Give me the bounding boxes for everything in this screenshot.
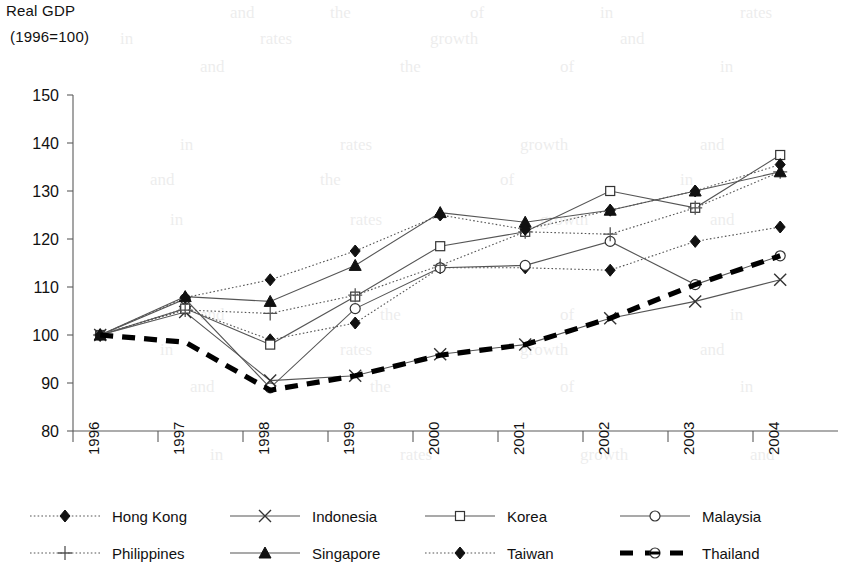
y-axis-tick-label: 80 (41, 423, 59, 440)
svg-text:in: in (170, 210, 184, 229)
legend-item[interactable]: Thailand (620, 545, 760, 562)
legend-label: Hong Kong (112, 508, 187, 525)
svg-text:the: the (330, 3, 351, 22)
svg-text:and: and (700, 340, 725, 359)
legend-item[interactable]: Malaysia (620, 508, 762, 525)
svg-text:of: of (560, 57, 575, 76)
legend-label: Taiwan (507, 545, 554, 562)
svg-text:and: and (620, 29, 645, 48)
data-point-marker (774, 274, 786, 286)
svg-text:and: and (710, 210, 735, 229)
data-point-marker (266, 340, 275, 349)
legend-item[interactable]: Singapore (230, 545, 380, 562)
legend-item[interactable]: Taiwan (425, 545, 554, 562)
x-axis-tick-label: 2004 (765, 422, 782, 455)
svg-text:rates: rates (260, 29, 292, 48)
svg-text:of: of (500, 170, 515, 189)
x-axis-tick-label: 2001 (510, 422, 527, 455)
svg-text:rates: rates (340, 135, 372, 154)
legend-label: Malaysia (702, 508, 762, 525)
svg-text:in: in (600, 3, 614, 22)
data-point-marker (349, 259, 361, 270)
real-gdp-chart: Real GDP (1996=100) andtheofinratesinrat… (0, 0, 854, 577)
x-axis-tick-label: 2002 (595, 422, 612, 455)
legend-item[interactable]: Hong Kong (30, 508, 187, 525)
legend-label: Philippines (112, 545, 185, 562)
svg-text:growth: growth (520, 135, 569, 154)
x-axis-tick-label: 2000 (425, 422, 442, 455)
open-square-solid-line-icon (425, 512, 495, 521)
svg-text:rates: rates (740, 3, 772, 22)
plus-cross-dotted-line-icon (30, 546, 100, 560)
data-point-marker (435, 209, 445, 221)
data-point-marker (775, 221, 785, 233)
x-axis-tick-label: 1998 (255, 422, 272, 455)
legend-item[interactable]: Indonesia (230, 508, 378, 525)
x-axis-tick-label: 1997 (170, 422, 187, 455)
data-series (95, 221, 785, 346)
svg-text:in: in (740, 377, 754, 396)
legend-label: Thailand (702, 545, 760, 562)
y-axis-tick-label: 90 (41, 375, 59, 392)
svg-text:the: the (380, 305, 401, 324)
svg-text:and: and (200, 305, 225, 324)
svg-text:in: in (720, 57, 734, 76)
svg-text:the: the (320, 170, 341, 189)
svg-text:and: and (150, 170, 175, 189)
data-point-marker (436, 242, 445, 251)
y-axis-tick-label: 130 (32, 183, 59, 200)
svg-text:of: of (470, 3, 485, 22)
y-axis-tick-label: 110 (33, 279, 59, 296)
legend-item[interactable]: Philippines (30, 545, 185, 562)
page-bleed-artifact: andtheofinratesinratesgrowthandandtheofi… (120, 3, 775, 464)
data-point-marker (690, 235, 700, 247)
legend-label: Indonesia (312, 508, 378, 525)
svg-text:the: the (370, 377, 391, 396)
data-point-marker (263, 306, 277, 320)
data-point-marker (775, 159, 785, 171)
filled-diamond-dotted-line-icon (425, 547, 495, 559)
x-axis-tick-label: 1999 (340, 422, 357, 455)
data-point-marker (350, 245, 360, 257)
x-axis-tick-label: 2003 (680, 422, 697, 455)
svg-text:of: of (560, 305, 575, 324)
legend-label: Korea (507, 508, 548, 525)
svg-text:in: in (210, 445, 224, 464)
svg-text:and: and (200, 57, 225, 76)
data-point-marker (265, 274, 275, 286)
data-point-marker (350, 304, 360, 314)
svg-text:and: and (190, 377, 215, 396)
data-point-marker (689, 295, 701, 307)
svg-text:in: in (680, 170, 694, 189)
data-point-marker (520, 260, 530, 270)
data-series (93, 165, 787, 342)
y-axis-tick-label: 120 (32, 231, 59, 248)
data-series (94, 274, 786, 387)
svg-text:and: and (700, 135, 725, 154)
thick-dashed-line-icon (620, 548, 690, 558)
svg-text:growth: growth (430, 29, 479, 48)
data-point-marker (605, 264, 615, 276)
svg-text:rates: rates (340, 340, 372, 359)
chart-canvas: andtheofinratesinratesgrowthandandtheofi… (0, 0, 854, 577)
chart-legend: Hong KongIndonesiaKoreaMalaysiaPhilippin… (30, 508, 762, 562)
x-axis-tick-label: 1996 (85, 422, 102, 455)
data-point-marker (606, 187, 615, 196)
svg-text:rates: rates (350, 210, 382, 229)
svg-text:the: the (400, 57, 421, 76)
svg-text:in: in (120, 29, 134, 48)
legend-item[interactable]: Korea (425, 508, 548, 525)
svg-text:in: in (730, 305, 744, 324)
x-cross-solid-line-icon (230, 510, 300, 522)
legend-label: Singapore (312, 545, 380, 562)
svg-text:of: of (560, 377, 575, 396)
data-point-marker (350, 317, 360, 329)
y-axis-tick-label: 100 (32, 327, 59, 344)
open-circle-solid-line-icon (620, 511, 690, 521)
y-axis-tick-label: 140 (32, 135, 59, 152)
svg-text:in: in (180, 135, 194, 154)
y-axis-tick-label: 150 (32, 87, 59, 104)
filled-diamond-dotted-line-icon (30, 510, 100, 522)
filled-triangle-solid-line-icon (230, 547, 300, 558)
svg-text:and: and (230, 3, 255, 22)
